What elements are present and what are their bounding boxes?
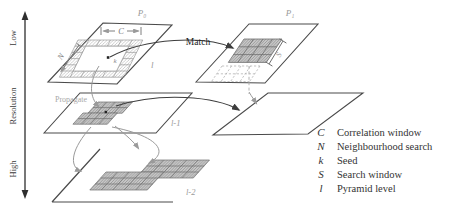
dashed-search-grid xyxy=(212,66,261,82)
resolution-axis: Low Resolution High xyxy=(8,11,28,199)
axis-arrow-down-icon xyxy=(22,190,29,199)
legend-label: Pyramid level xyxy=(337,183,396,194)
level-l1-label: l-1 xyxy=(171,118,180,128)
p0-label: P₀ xyxy=(137,8,147,18)
level-l-label: l xyxy=(151,60,154,70)
legend-symbol: k xyxy=(319,154,325,166)
p1-label: P₁ xyxy=(285,8,295,18)
seed-point xyxy=(107,56,110,59)
legend-label: Search window xyxy=(337,169,402,180)
legend-row: N Neighbourhood search xyxy=(316,140,433,152)
legend-row: l Pyramid level xyxy=(319,182,395,194)
axis-low-label: Low xyxy=(8,29,18,45)
legend-row: C Correlation window xyxy=(317,126,421,138)
legend-symbol: C xyxy=(317,126,325,138)
pyramid-matching-diagram: Low Resolution High C N k l P₀ xyxy=(0,0,463,211)
legend-label: Correlation window xyxy=(337,127,422,138)
down-arrow-left xyxy=(73,127,91,172)
legend-symbol: l xyxy=(319,182,322,194)
level-l2-label: l-2 xyxy=(186,187,196,197)
axis-resolution-label: Resolution xyxy=(8,87,18,125)
p1-drop-arrow xyxy=(249,92,257,104)
legend-symbol: S xyxy=(318,168,324,180)
s-label: S xyxy=(274,51,284,59)
correlation-window-grid xyxy=(59,40,142,77)
legend-label: Neighbourhood search xyxy=(337,141,433,152)
transfer-arrow xyxy=(116,97,239,110)
match-label: Match xyxy=(186,37,211,47)
c-label: C xyxy=(118,26,124,36)
legend-label: Seed xyxy=(337,155,358,166)
axis-high-label: High xyxy=(8,160,18,178)
axis-arrow-up-icon xyxy=(22,11,29,20)
seed-grid-l2 xyxy=(90,160,210,190)
search-window-grid xyxy=(228,39,282,62)
legend-row: S Search window xyxy=(318,168,402,180)
seed-grid-l1 xyxy=(73,102,132,124)
propagate-label: Propagate xyxy=(55,95,87,104)
pyramid-matching-figure: Low Resolution High C N k l P₀ xyxy=(0,0,463,211)
n-label: N xyxy=(55,51,66,62)
legend-row: k Seed xyxy=(319,154,359,166)
legend-symbol: N xyxy=(316,140,325,152)
down-arrow-short xyxy=(115,126,139,149)
l1-seed-point xyxy=(105,111,107,113)
legend: C Correlation window N Neighbourhood sea… xyxy=(316,126,433,194)
